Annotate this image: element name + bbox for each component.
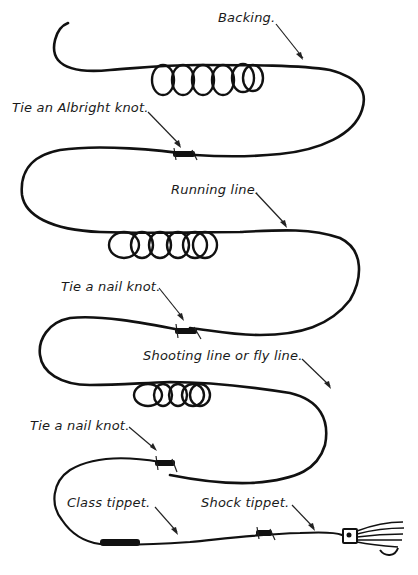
label-nail-knot-2: Tie a nail knot.	[30, 418, 130, 433]
backing-segment	[54, 23, 364, 156]
shooting-line-segment	[40, 317, 326, 483]
label-nail-knot-1: Tie a nail knot.	[61, 279, 161, 294]
fly-icon	[343, 522, 404, 555]
running-line-segment	[22, 147, 359, 335]
backing-coils	[152, 64, 263, 95]
label-shock-tippet: Shock tippet.	[201, 495, 289, 510]
class-tippet-knot	[100, 539, 140, 546]
nail-knot-1	[175, 324, 201, 339]
label-backing: Backing.	[218, 10, 275, 25]
label-running-line: Running line.	[171, 182, 259, 197]
shooting-line-coils	[134, 384, 210, 406]
nail-knot-2	[155, 456, 177, 472]
label-albright-knot: Tie an Albright knot.	[12, 100, 149, 115]
label-class-tippet: Class tippet.	[67, 495, 150, 510]
label-shooting-line: Shooting line or fly line.	[143, 348, 303, 363]
running-line-coils	[109, 232, 217, 258]
